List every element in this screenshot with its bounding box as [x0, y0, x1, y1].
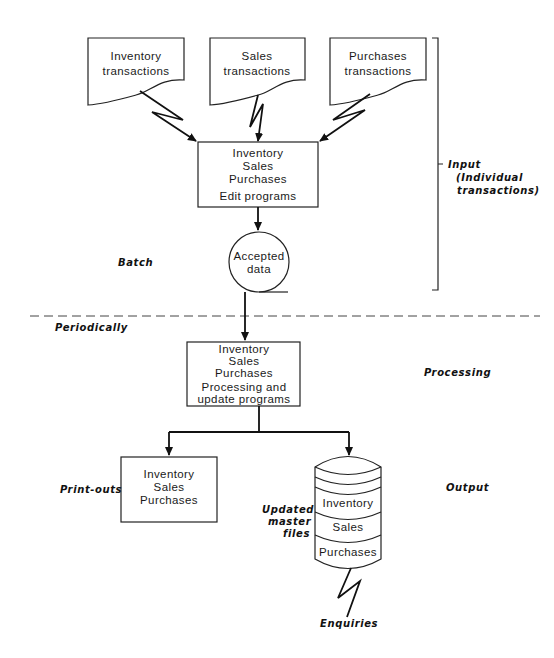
master-files-disk: Inventory Sales Purchases	[315, 457, 381, 569]
diagram-label: transactions	[103, 65, 170, 77]
diagram-label: Inventory	[111, 50, 162, 62]
diagram-label: Processing	[424, 367, 491, 378]
flowchart: Inventory transactions Sales transaction…	[0, 0, 554, 658]
diagram-label: Periodically	[55, 322, 128, 333]
diagram-label: Accepted	[233, 250, 284, 262]
doc-purchases-transactions: Purchases transactions	[330, 38, 426, 105]
accepted-data-tape: Accepted data	[229, 232, 289, 292]
diagram-label: Sales	[242, 50, 273, 62]
diagram-label: Purchases	[229, 173, 287, 185]
diagram-label: master	[268, 516, 312, 527]
diagram-label: Inventory	[323, 497, 374, 509]
diagram-label: (Individual	[456, 172, 523, 183]
diagram-label: transactions	[345, 65, 412, 77]
doc-inventory-transactions: Inventory transactions	[88, 38, 184, 105]
edit-programs-box: Inventory Sales Purchases Edit programs	[198, 142, 318, 207]
diagram-label: Processing and	[202, 381, 287, 393]
diagram-label: Inventory	[219, 343, 270, 355]
processing-box: Inventory Sales Purchases Processing and…	[187, 342, 300, 406]
diagram-label: Output	[446, 482, 490, 493]
diagram-label: Sales	[229, 355, 260, 367]
diagram-label: Input	[448, 159, 482, 170]
diagram-label: transactions	[224, 65, 291, 77]
diagram-label: Inventory	[233, 147, 284, 159]
diagram-label: Edit programs	[220, 190, 297, 202]
diagram-label: Sales	[243, 160, 274, 172]
diagram-label: Batch	[118, 257, 153, 268]
diagram-label: Print-outs	[60, 484, 122, 495]
enquiries-lightning	[338, 568, 360, 617]
diagram-label: Sales	[333, 521, 364, 533]
diagram-label: Updated	[262, 504, 314, 515]
branch-line	[169, 406, 349, 432]
lightning-arrow-sales	[250, 95, 263, 141]
diagram-label: Purchases	[319, 546, 377, 558]
diagram-label: Purchases	[349, 50, 407, 62]
lightning-arrow-inventory	[140, 91, 196, 141]
diagram-label: Sales	[154, 481, 185, 493]
printouts-box: Inventory Sales Purchases	[121, 457, 217, 522]
diagram-label: Enquiries	[320, 618, 378, 629]
diagram-label: files	[283, 528, 310, 539]
diagram-label: Purchases	[140, 494, 198, 506]
diagram-label: transactions)	[457, 185, 540, 196]
diagram-label: data	[247, 263, 271, 275]
diagram-label: update programs	[198, 393, 291, 405]
lightning-arrow-purchases	[320, 94, 370, 141]
diagram-label: Inventory	[144, 468, 195, 480]
diagram-label: Purchases	[215, 367, 273, 379]
input-bracket	[432, 38, 443, 290]
